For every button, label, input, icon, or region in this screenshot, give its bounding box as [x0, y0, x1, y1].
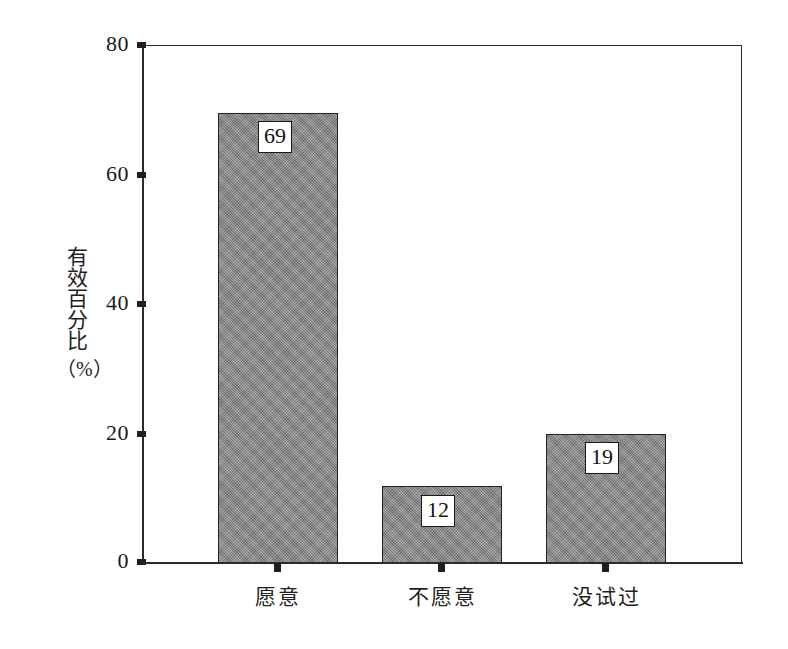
y-axis-title-text: 有效百分比	[64, 246, 88, 351]
y-axis-tick-60	[137, 172, 146, 178]
y-axis-tick-80	[137, 42, 146, 48]
x-axis-label-never-tried: 没试过	[526, 580, 686, 610]
bar-value-label-not-willing: 12	[421, 495, 455, 527]
y-axis-tick-label-80: 80	[85, 33, 129, 55]
x-axis-tick-never-tried	[602, 563, 609, 572]
y-axis-tick-label-60: 60	[85, 163, 129, 185]
y-axis-title: 有效百分比 （%）	[56, 246, 96, 381]
x-axis-tick-not-willing	[438, 563, 445, 572]
x-axis-label-willing: 愿意	[198, 580, 358, 610]
y-axis-title-unit: （%）	[56, 357, 96, 381]
bar-value-label-never-tried: 19	[585, 442, 619, 474]
y-axis-tick-label-0: 0	[85, 550, 129, 572]
bar-willing[interactable]	[218, 113, 338, 563]
x-axis-label-not-willing: 不愿意	[362, 580, 522, 610]
y-axis-tick-20	[137, 431, 146, 437]
bar-chart-figure: 80 60 40 20 0 有效百分比 （%） 69 12 19 愿意 不愿意 …	[0, 0, 788, 649]
bar-value-label-willing: 69	[258, 121, 292, 153]
x-axis-tick-willing	[274, 563, 281, 572]
y-axis-tick-40	[137, 301, 146, 307]
y-axis-tick-label-20: 20	[85, 422, 129, 444]
